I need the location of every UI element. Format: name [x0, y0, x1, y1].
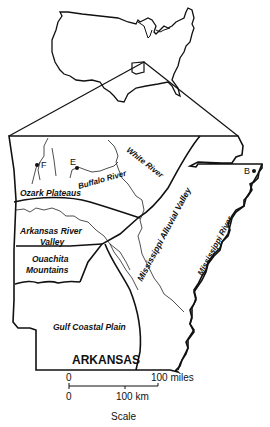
arkansas-river — [16, 208, 138, 290]
us-outline — [52, 8, 194, 102]
site-b-label: B — [244, 166, 250, 176]
boundary-ozark-south — [14, 198, 140, 219]
boundary-alluvial-west — [105, 244, 141, 370]
region-mississippi-alluvial-valley: Mississippi Alluvial Valley — [135, 185, 194, 283]
region-gulf-coastal-plain: Gulf Coastal Plain — [53, 322, 126, 332]
scale-title: Scale — [111, 411, 136, 422]
boundary-ouachita-east — [80, 218, 138, 282]
arkansas-map: F E B Ozark Plateaus Arkansas River Vall… — [0, 0, 270, 427]
ouachita-river-edge — [110, 244, 130, 270]
site-b-dot — [252, 169, 256, 173]
boundary-ouachita-south — [15, 281, 80, 284]
label-buffalo-river: Buffalo River — [77, 168, 128, 191]
label-mississippi-river: Mississippi River — [196, 214, 235, 277]
region-ozark-plateaus: Ozark Plateaus — [20, 188, 81, 198]
site-f-label: F — [41, 160, 47, 170]
region-arkansas-river-line1: Arkansas River — [19, 226, 83, 236]
scale-km-zero: 0 — [66, 391, 72, 402]
projection-line-left — [9, 62, 144, 136]
site-f-dot — [35, 163, 39, 167]
label-white-river: White River — [125, 145, 166, 180]
region-arkansas-river-line2: Valley — [40, 237, 66, 247]
site-e-label: E — [70, 157, 76, 167]
region-ouachita-line2: Mountains — [26, 265, 69, 275]
projection-line-right — [144, 62, 238, 136]
state-label: ARKANSAS — [72, 353, 140, 367]
region-ouachita-line1: Ouachita — [32, 254, 69, 264]
scale-km-end: 100 km — [116, 391, 149, 402]
boundary-ozark-east — [138, 136, 200, 218]
scale-miles-zero: 0 — [66, 372, 72, 383]
scale-miles-end: 100 miles — [151, 372, 194, 383]
